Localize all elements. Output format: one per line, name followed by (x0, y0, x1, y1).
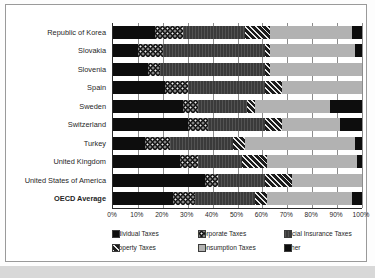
bar-segment-individual (113, 44, 138, 57)
bar-segment-other (330, 100, 362, 113)
y-axis-label-3: Spain (14, 83, 106, 92)
legend-swatch-consumption-icon (198, 244, 206, 252)
x-tick-80%: 80% (305, 210, 318, 219)
bar-segment-property (265, 174, 292, 187)
legend-swatch-other-icon (284, 244, 292, 252)
bar-row (113, 118, 362, 131)
legend-item-corporate[interactable]: Corporate Taxes (198, 230, 246, 238)
legend-item-social[interactable]: Social Insurance Taxes (284, 230, 352, 238)
x-tick-10%: 10% (130, 210, 143, 219)
bar-row (113, 174, 362, 187)
bar-segment-consumption (267, 192, 352, 205)
bar-row (113, 44, 362, 57)
x-tick-40%: 40% (205, 210, 218, 219)
bar-segment-property (247, 100, 254, 113)
bar-segment-consumption (270, 26, 352, 39)
x-axis-tick-labels: 0%10%20%30%40%50%60%70%80%90%100% (107, 210, 367, 221)
bar-row (113, 81, 362, 94)
bar-segment-other (357, 155, 362, 168)
legend-label: Consumption Taxes (198, 244, 256, 252)
chart-legend: Individual TaxesCorporate TaxesSocial In… (112, 230, 362, 258)
bar-segment-property (245, 26, 270, 39)
bar-segment-other (352, 192, 362, 205)
bar-segment-other (340, 118, 362, 131)
bar-segment-individual (113, 63, 148, 76)
chart-plot-area (107, 23, 361, 208)
bar-row (113, 63, 362, 76)
bar-segment-individual (113, 137, 145, 150)
legend-swatch-individual-icon (112, 230, 120, 238)
bar-segment-consumption (282, 118, 339, 131)
bar-segment-social (160, 63, 265, 76)
bar-segment-social (170, 137, 232, 150)
bar-row (113, 26, 362, 39)
gridline-100% (362, 23, 363, 208)
bar-segment-property (233, 137, 245, 150)
legend-item-consumption[interactable]: Consumption Taxes (198, 244, 256, 252)
bar-segment-consumption (255, 100, 330, 113)
bar-segment-property (265, 118, 282, 131)
x-tick-50%: 50% (230, 210, 243, 219)
legend-item-individual[interactable]: Individual Taxes (112, 230, 159, 238)
plot-frame (112, 23, 363, 208)
x-tick-60%: 60% (255, 210, 268, 219)
bar-segment-property (242, 155, 267, 168)
bar-segment-consumption (282, 81, 362, 94)
bar-segment-corporate (148, 63, 160, 76)
bar-segment-corporate (180, 155, 197, 168)
page-root: Republic of Korea Slovakia Slovenia Spai… (0, 0, 375, 278)
x-tick-100%: 100% (353, 210, 370, 219)
y-axis-label-1: Slovakia (14, 46, 106, 55)
y-axis-label-4: Sweden (14, 102, 106, 111)
stacked-bars (113, 23, 362, 208)
chart-figure-frame: Republic of Korea Slovakia Slovenia Spai… (5, 4, 367, 262)
bar-segment-other (355, 137, 362, 150)
bar-segment-consumption (270, 63, 362, 76)
x-tick-30%: 30% (180, 210, 193, 219)
bar-segment-social (188, 81, 265, 94)
bar-row (113, 192, 362, 205)
bar-segment-corporate (188, 118, 208, 131)
bottom-caption-strip (0, 266, 375, 278)
bar-segment-individual (113, 174, 205, 187)
bar-row (113, 100, 362, 113)
bar-segment-social (218, 174, 265, 187)
bar-segment-consumption (267, 155, 357, 168)
y-axis-label-0: Republic of Korea (14, 28, 106, 37)
bar-segment-corporate (183, 100, 198, 113)
bar-segment-corporate (173, 192, 195, 205)
bar-segment-individual (113, 26, 155, 39)
bar-segment-corporate (155, 26, 182, 39)
bar-row (113, 155, 362, 168)
bar-segment-consumption (245, 137, 355, 150)
bar-segment-other (352, 26, 362, 39)
legend-item-property[interactable]: Property Taxes (112, 244, 156, 252)
bar-segment-individual (113, 118, 188, 131)
bar-segment-property (265, 81, 282, 94)
bar-segment-social (208, 118, 265, 131)
legend-swatch-property-icon (112, 244, 120, 252)
bar-row (113, 137, 362, 150)
bar-segment-social (183, 26, 245, 39)
bar-segment-corporate (138, 44, 163, 57)
legend-item-other[interactable]: Other (284, 244, 301, 252)
y-axis-label-6: Turkey (14, 139, 106, 148)
x-axis-line (112, 208, 362, 209)
bar-segment-social (198, 100, 248, 113)
legend-swatch-corporate-icon (198, 230, 206, 238)
x-tick-90%: 90% (329, 210, 342, 219)
bar-segment-corporate (205, 174, 217, 187)
bar-segment-consumption (292, 174, 362, 187)
y-axis-label-7: United Kingdom (14, 157, 106, 166)
bar-segment-individual (113, 81, 165, 94)
bar-segment-social (195, 192, 255, 205)
bar-segment-individual (113, 155, 180, 168)
bar-segment-individual (113, 100, 183, 113)
y-axis-label-8: United States of America (14, 176, 106, 185)
y-axis-labels: Republic of Korea Slovakia Slovenia Spai… (14, 23, 106, 208)
bar-segment-other (355, 44, 362, 57)
legend-label: Social Insurance Taxes (284, 230, 352, 238)
bar-segment-individual (113, 192, 173, 205)
x-tick-0%: 0% (107, 210, 117, 219)
x-tick-70%: 70% (280, 210, 293, 219)
